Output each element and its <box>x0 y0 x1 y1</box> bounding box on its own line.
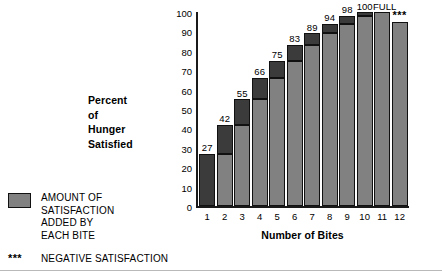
bar-column[interactable] <box>322 24 338 206</box>
legend-item-negative-satisfaction: *** NEGATIVE SATISFACTION <box>8 252 168 264</box>
x-tick-label: 9 <box>344 212 349 222</box>
legend-label-amount-added: AMOUNT OF SATISFACTION ADDED BY EACH BIT… <box>41 192 114 242</box>
bar-increment-segment <box>357 12 373 16</box>
y-tick-label: 50 <box>181 106 192 116</box>
y-tick-label: 60 <box>181 87 192 97</box>
x-axis-title: Number of Bites <box>196 229 409 241</box>
y-axis-title-line-1: Percent <box>88 93 158 108</box>
bar-increment-segment <box>269 61 285 78</box>
legend-label-line-2: SATISFACTION <box>41 205 114 218</box>
bar-increment-segment <box>304 33 320 45</box>
bar-column[interactable] <box>304 33 320 206</box>
legend-label-line-1: AMOUNT OF <box>41 192 114 205</box>
bar-column[interactable] <box>234 99 250 206</box>
y-axis-title: Percent of Hunger Satisfied <box>88 93 158 151</box>
bar-column[interactable] <box>269 61 285 207</box>
bar-cumulative-segment <box>392 22 408 206</box>
bar-column[interactable] <box>252 78 268 206</box>
y-axis-title-line-3: Hunger <box>88 122 158 137</box>
bar-value-label: 66 <box>254 67 265 77</box>
y-tick-label: 80 <box>181 48 192 58</box>
bar-column[interactable] <box>199 154 215 206</box>
bar-value-label: 94 <box>324 13 335 23</box>
legend-label-negative-satisfaction: NEGATIVE SATISFACTION <box>41 253 168 264</box>
bar-value-label: 89 <box>307 23 318 33</box>
y-tick-label: 90 <box>181 29 192 39</box>
bar-value-label: 75 <box>272 50 283 60</box>
legend-item-amount-added: AMOUNT OF SATISFACTION ADDED BY EACH BIT… <box>8 192 188 242</box>
y-tick-label: 30 <box>181 145 192 155</box>
y-axis-title-line-2: of <box>88 108 158 123</box>
bar-annotation-asterisks: *** <box>393 11 407 21</box>
bar-cumulative-segment <box>234 125 250 206</box>
y-tick-label: 40 <box>181 126 192 136</box>
bar-increment-segment <box>234 99 250 124</box>
bar-value-label: 55 <box>237 89 248 99</box>
bar-cumulative-segment <box>269 78 285 206</box>
y-axis-line <box>196 12 198 208</box>
x-tick-label: 5 <box>274 212 279 222</box>
bar-increment-segment <box>217 125 233 154</box>
bar-value-label: 42 <box>219 114 230 124</box>
x-tick-label: 8 <box>327 212 332 222</box>
legend-swatch-gray <box>8 193 31 208</box>
bar-value-label: 98 <box>342 5 353 15</box>
bar-column[interactable] <box>374 12 390 206</box>
bar-cumulative-segment <box>304 45 320 206</box>
bar-chart-plot-area: 0102030405060708090100 27425566758389949… <box>196 12 409 208</box>
legend-label-line-4: EACH BITE <box>41 230 114 243</box>
x-tick-label: 3 <box>239 212 244 222</box>
bar-value-label: 83 <box>289 34 300 44</box>
asterisk-marker-icon: *** <box>8 252 33 264</box>
y-tick-label: 100 <box>176 9 192 19</box>
y-tick-label: 20 <box>181 164 192 174</box>
bar-cumulative-segment <box>322 33 338 206</box>
x-tick-label: 10 <box>359 212 370 222</box>
bar-column[interactable] <box>339 16 355 206</box>
bottom-divider <box>0 270 442 271</box>
bar-column[interactable] <box>357 12 373 206</box>
legend-label-line-3: ADDED BY <box>41 217 114 230</box>
x-tick-label: 11 <box>377 212 387 222</box>
x-tick-label: 12 <box>394 212 405 222</box>
x-tick-label: 6 <box>292 212 297 222</box>
x-tick-label: 7 <box>309 212 314 222</box>
bar-cumulative-segment <box>357 16 373 206</box>
bar-increment-segment <box>252 78 268 99</box>
x-tick-label: 4 <box>257 212 262 222</box>
y-axis-title-line-4: Satisfied <box>88 137 158 152</box>
bar-increment-segment <box>199 154 215 206</box>
bar-increment-segment <box>322 24 338 34</box>
bar-increment-segment <box>339 16 355 24</box>
bar-column[interactable] <box>287 45 303 206</box>
bar-column[interactable] <box>217 125 233 206</box>
bar-value-label: 27 <box>202 143 213 153</box>
bar-cumulative-segment <box>374 12 390 206</box>
bar-value-label: 100 <box>357 2 373 12</box>
bar-cumulative-segment <box>217 154 233 206</box>
x-tick-label: 2 <box>222 212 227 222</box>
y-tick-label: 70 <box>181 67 192 77</box>
x-axis-line <box>196 206 409 208</box>
x-tick-label: 1 <box>204 212 209 222</box>
bar-cumulative-segment <box>339 24 355 206</box>
bar-cumulative-segment <box>252 99 268 206</box>
bar-column[interactable] <box>392 22 408 206</box>
legend: AMOUNT OF SATISFACTION ADDED BY EACH BIT… <box>8 192 188 242</box>
bar-cumulative-segment <box>287 61 303 207</box>
bar-increment-segment <box>287 45 303 61</box>
